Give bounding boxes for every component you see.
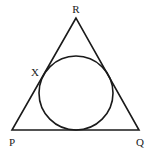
geometry-diagram: R X P Q	[0, 0, 155, 156]
label-r: R	[72, 3, 80, 15]
label-x: X	[31, 66, 39, 78]
inscribed-circle	[39, 56, 113, 130]
label-q: Q	[136, 136, 144, 148]
label-p: P	[9, 136, 15, 148]
